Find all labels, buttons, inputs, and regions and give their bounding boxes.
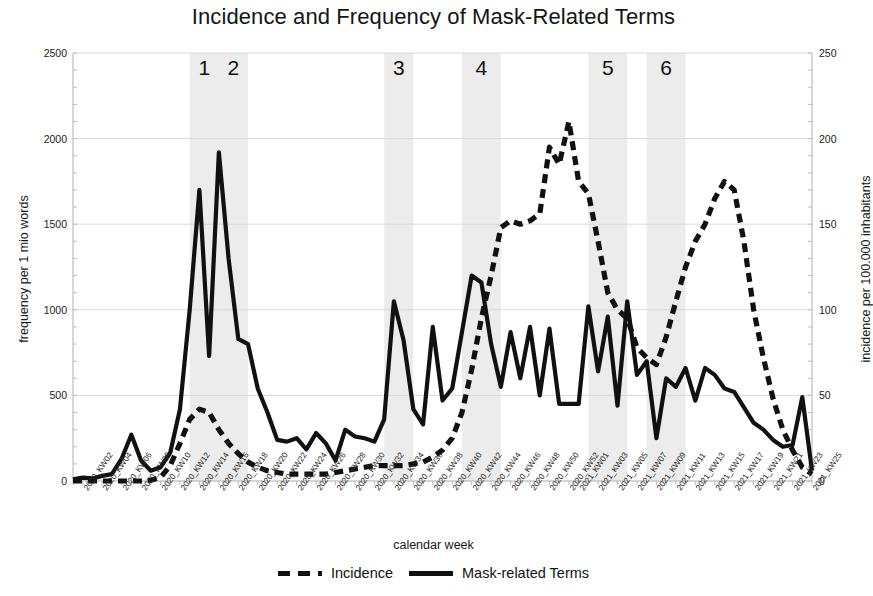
y-axis-left-tick-label: 2000	[25, 133, 67, 145]
legend-label-mask-related-terms: Mask-related Terms	[462, 566, 589, 581]
region-label-1: 1	[198, 56, 210, 80]
y-axis-right-tick-label: 50	[819, 389, 861, 401]
chart-legend: Incidence Mask-related Terms	[0, 566, 867, 581]
y-axis-right-tick-label: 250	[819, 47, 861, 59]
y-axis-left-tick-label: 500	[25, 389, 67, 401]
region-label-4: 4	[476, 56, 488, 80]
shaded-band-3	[384, 53, 413, 481]
series-line-incidence	[73, 121, 812, 481]
y-axis-left-tick-label: 2500	[25, 47, 67, 59]
shaded-band-2	[219, 53, 248, 481]
y-axis-right-tick-label: 200	[819, 133, 861, 145]
y-axis-left-tick-label: 0	[25, 475, 67, 487]
legend-label-incidence: Incidence	[331, 566, 393, 581]
y-axis-left-tick-label: 1000	[25, 304, 67, 316]
dashed-line-icon	[278, 571, 322, 576]
region-label-2: 2	[228, 56, 240, 80]
solid-line-icon	[409, 571, 453, 576]
y-axis-left-tick-label: 1500	[25, 218, 67, 230]
region-label-3: 3	[393, 56, 405, 80]
legend-item-mask-related-terms[interactable]: Mask-related Terms	[409, 566, 589, 581]
y-axis-right-tick-label: 100	[819, 304, 861, 316]
region-label-6: 6	[660, 56, 672, 80]
legend-item-incidence[interactable]: Incidence	[278, 566, 393, 581]
region-label-5: 5	[602, 56, 614, 80]
y-axis-right-tick-label: 150	[819, 218, 861, 230]
shaded-band-5	[588, 53, 627, 481]
